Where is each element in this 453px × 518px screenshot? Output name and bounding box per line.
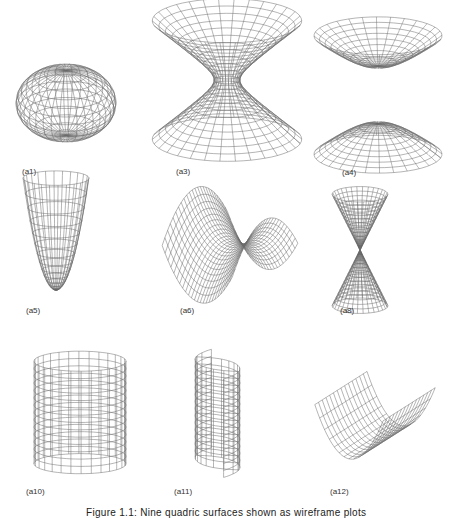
panel-label-a1: (a1) bbox=[22, 167, 36, 176]
panel-label-a4: (a4) bbox=[342, 168, 356, 177]
panel-label-a5: (a5) bbox=[26, 306, 40, 315]
ellipsoid-wireframe bbox=[0, 0, 150, 180]
parabolic-cylinder-wireframe bbox=[280, 330, 453, 505]
elliptic-cylinder-wireframe bbox=[0, 330, 150, 505]
panel-label-a11: (a11) bbox=[174, 487, 192, 496]
panel-label-a8: (a8) bbox=[340, 306, 354, 315]
figure-caption: Figure 1.1: Nine quadric surfaces shown … bbox=[86, 507, 366, 518]
panel-a12-parabolic-cylinder: (a12) bbox=[280, 330, 453, 505]
panel-label-a10: (a10) bbox=[26, 487, 45, 496]
panel-a3-hyperboloid-one-sheet: (a3) bbox=[150, 0, 310, 180]
panel-label-a6: (a6) bbox=[180, 306, 194, 315]
elliptic-paraboloid-wireframe bbox=[0, 180, 150, 330]
hyperboloid-one-sheet-wireframe bbox=[150, 0, 310, 180]
elliptic-cone-wireframe bbox=[310, 180, 453, 330]
panel-a10-elliptic-cylinder: (a10) bbox=[0, 330, 150, 505]
panel-a8-elliptic-cone: (a8) bbox=[310, 180, 453, 330]
panel-label-a12: (a12) bbox=[330, 487, 349, 496]
panel-label-a3: (a3) bbox=[176, 167, 190, 176]
hyperboloid-two-sheets-wireframe bbox=[310, 0, 453, 180]
panel-a6-hyperbolic-paraboloid: (a6) bbox=[150, 180, 310, 330]
panel-a11-hyperbolic-cylinder: (a11) bbox=[150, 330, 290, 505]
hyperbolic-paraboloid-wireframe bbox=[150, 180, 310, 330]
hyperbolic-cylinder-wireframe bbox=[150, 330, 290, 505]
panel-a1-ellipsoid: (a1) bbox=[0, 0, 150, 180]
panel-a5-elliptic-paraboloid: (a5) bbox=[0, 180, 150, 330]
panel-a4-hyperboloid-two-sheets: (a4) bbox=[310, 0, 453, 180]
